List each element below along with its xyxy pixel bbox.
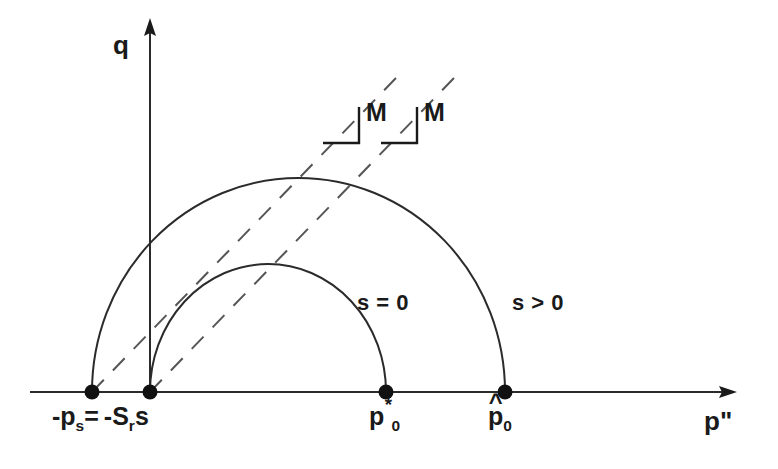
tick-p0-star-base: p (369, 402, 384, 430)
inner-semicircle-curve (150, 264, 386, 392)
tick-p0-star-superscript: * (385, 394, 392, 415)
tick-label-minus-ps-equals-minus-srs: -ps=-Srs (52, 404, 149, 429)
slope-label-m-left: M (366, 100, 387, 125)
slope-label-m-right: M (424, 100, 445, 125)
y-axis-group (144, 18, 156, 392)
region-label-s-equals-0: s = 0 (357, 292, 409, 314)
point-minus-ps[interactable] (85, 385, 100, 400)
tick-part-sub-r: r (129, 417, 135, 434)
tick-part-tail-s: s (135, 402, 149, 430)
tick-part-minus-p: -p (52, 402, 76, 430)
tick-p0-star-subscript: 0 (392, 417, 401, 434)
y-axis-label: q (113, 32, 129, 58)
tick-p0-hat-wrap: ^p (488, 404, 503, 429)
tick-p0-hat-subscript: 0 (503, 417, 512, 434)
slope-marker-left-bracket (323, 107, 359, 143)
tick-p0-hat-accent: ^ (489, 390, 503, 414)
dashed-line-left (92, 78, 396, 392)
tick-label-p0-star: p*0 (369, 404, 400, 429)
x-axis-label: p" (704, 408, 732, 434)
tick-part-sub-s: s (76, 417, 85, 434)
tick-part-equals: = (84, 402, 99, 430)
dashed-lines-group (92, 78, 454, 392)
point-minus-sr-s[interactable] (143, 385, 158, 400)
figure-canvas: q p" M M s = 0 s > 0 -ps=-Srs p*0 ^p0 (0, 0, 778, 469)
dashed-line-right (150, 78, 454, 392)
tick-part-minus-S: -S (104, 402, 129, 430)
tick-label-p0-hat: ^p0 (488, 404, 512, 429)
slope-marker-left (323, 107, 359, 143)
region-label-s-greater-0: s > 0 (512, 292, 564, 314)
